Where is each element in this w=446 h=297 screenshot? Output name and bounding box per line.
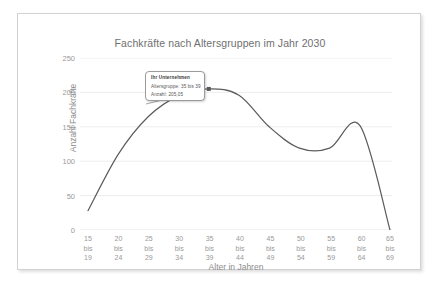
x-tick-line: 35 — [205, 234, 214, 244]
x-tick-label: 65 bis 69 — [386, 234, 395, 263]
x-tick-label: 30 bis 34 — [175, 234, 184, 263]
y-tick-label: 100 — [62, 157, 75, 166]
x-tick-line: 45 — [266, 234, 275, 244]
page-root: Fachkräfte nach Altersgruppen im Jahr 20… — [0, 0, 446, 297]
chart-title: Fachkräfte nach Altersgruppen im Jahr 20… — [18, 37, 422, 49]
gridlines — [80, 58, 392, 230]
x-tick-label: 15 bis 19 — [84, 234, 93, 263]
y-tick-label: 200 — [62, 88, 75, 97]
x-tick-line: bis — [84, 244, 93, 254]
x-tick-line: bis — [357, 244, 366, 254]
x-tick-line: 15 — [84, 234, 93, 244]
x-tick-line: 60 — [357, 234, 366, 244]
x-tick-line: bis — [386, 244, 395, 254]
y-tick-label: 250 — [62, 54, 75, 63]
plot-area: Anzahl Fachkräfte 0 50 100 150 200 250 — [80, 58, 392, 230]
x-tick-label: 25 bis 29 — [144, 234, 153, 263]
x-axis-title: Alter in Jahren — [80, 262, 392, 272]
x-tick-label: 20 bis 24 — [114, 234, 123, 263]
y-tick-label: 150 — [62, 122, 75, 131]
x-tick-line: bis — [205, 244, 214, 254]
x-tick-line: 30 — [175, 234, 184, 244]
x-tick-line: 20 — [114, 234, 123, 244]
x-tick-label: 35 bis 39 — [205, 234, 214, 263]
x-tick-line: bis — [236, 244, 245, 254]
chart-card: Fachkräfte nach Altersgruppen im Jahr 20… — [17, 13, 421, 270]
x-tick-line: bis — [144, 244, 153, 254]
x-tick-label: 45 bis 49 — [266, 234, 275, 263]
x-tick-line: bis — [175, 244, 184, 254]
y-tick-label: 50 — [67, 191, 75, 200]
y-tick-label: 0 — [71, 226, 75, 235]
plot-svg — [80, 58, 392, 230]
x-tick-line: 50 — [296, 234, 305, 244]
highlighted-data-point[interactable] — [207, 87, 211, 91]
data-point-tooltip: Ihr Unternehmen Altersgruppe: 35 bis 39 … — [145, 71, 205, 101]
x-tick-line: 40 — [236, 234, 245, 244]
x-tick-line: bis — [114, 244, 123, 254]
x-tick-line: bis — [327, 244, 336, 254]
data-series-line — [88, 89, 390, 230]
tooltip-series-name: Ihr Unternehmen — [151, 75, 200, 80]
x-tick-label: 40 bis 44 — [236, 234, 245, 263]
x-tick-label: 60 bis 64 — [357, 234, 366, 263]
x-tick-line: bis — [266, 244, 275, 254]
tooltip-row-anzahl: Anzahl: 205,05 — [151, 92, 200, 97]
x-tick-label: 50 bis 54 — [296, 234, 305, 263]
x-tick-label: 55 bis 59 — [327, 234, 336, 263]
tooltip-row-altersgruppe: Altersgruppe: 35 bis 39 — [151, 84, 200, 89]
x-tick-line: bis — [296, 244, 305, 254]
x-tick-line: 65 — [386, 234, 395, 244]
x-tick-line: 55 — [327, 234, 336, 244]
x-tick-line: 25 — [144, 234, 153, 244]
